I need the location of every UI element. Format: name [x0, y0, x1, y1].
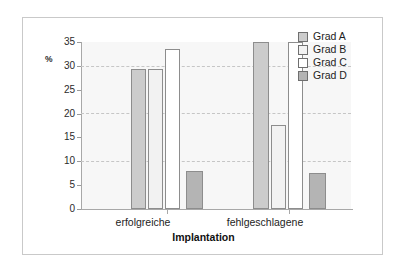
- gridline-20: [81, 113, 351, 114]
- legend-label-grad-c: Grad C: [313, 57, 347, 68]
- chart-legend: Grad A Grad B Grad C Grad D: [298, 30, 378, 82]
- legend-label-grad-b: Grad B: [313, 44, 346, 55]
- legend-swatch-grad-d: [298, 71, 308, 81]
- bar-fehlgeschlagene-grad-a: [253, 42, 269, 209]
- gridline-10: [81, 161, 351, 162]
- bar-erfolgreiche-grad-c: [165, 49, 180, 209]
- y-tick-label-20: 20: [49, 109, 75, 119]
- legend-label-grad-d: Grad D: [313, 70, 347, 81]
- x-tick-mark-erfolgreiche: [167, 209, 168, 214]
- bar-erfolgreiche-grad-b: [148, 69, 163, 209]
- y-tick-label-25: 25: [49, 85, 75, 95]
- y-tick-label-30: 30: [49, 61, 75, 71]
- bar-fehlgeschlagene-grad-b: [271, 125, 286, 209]
- bar-fehlgeschlagene-grad-d: [309, 173, 326, 209]
- x-axis-line: [81, 209, 353, 210]
- legend-swatch-grad-b: [298, 45, 308, 55]
- y-tick-label-5: 5: [49, 180, 75, 190]
- y-tick-label-10: 10: [49, 156, 75, 166]
- y-tick-label-15: 15: [49, 132, 75, 142]
- bar-erfolgreiche-grad-d: [186, 171, 203, 209]
- x-tick-mark-fehlgeschlagene: [289, 209, 290, 214]
- legend-item-grad-c: Grad C: [298, 56, 378, 69]
- x-category-label-fehlgeschlagene: fehlgeschlagene: [205, 216, 325, 228]
- legend-label-grad-a: Grad A: [313, 31, 346, 42]
- y-tick-label-35: 35: [49, 37, 75, 47]
- bar-erfolgreiche-grad-a: [131, 69, 146, 209]
- legend-item-grad-d: Grad D: [298, 69, 378, 82]
- x-category-label-erfolgreiche: erfolgreiche: [83, 216, 203, 228]
- legend-swatch-grad-c: [298, 58, 308, 68]
- y-axis-line: [81, 42, 82, 209]
- x-axis-title: Implantation: [23, 231, 384, 243]
- legend-swatch-grad-a: [298, 32, 308, 42]
- chart-figure: % 35 30 25 20 15 10 5 0 erfolgreiche feh…: [22, 17, 383, 255]
- y-tick-label-0: 0: [49, 204, 75, 214]
- legend-item-grad-b: Grad B: [298, 43, 378, 56]
- legend-item-grad-a: Grad A: [298, 30, 378, 43]
